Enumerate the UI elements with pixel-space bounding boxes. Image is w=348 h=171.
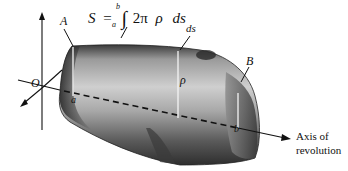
differential: ds [172,10,185,26]
coordinate-axes [18,12,64,130]
surface-of-revolution-figure: S = ∫ b a 2π ρ ds O A B a b ρ ds Axis of… [0,0,348,171]
label-point-b: B [246,55,253,67]
formula-equals: = [103,10,111,26]
integrand-coeff: 2π [133,10,148,26]
label-point-a: A [60,15,67,27]
label-axis-line2: revolution [296,145,341,156]
label-axis-line1: Axis of [296,131,329,142]
label-limit-a: a [71,95,76,105]
integral-sign: ∫ [121,7,126,29]
depth-axis-back [42,70,62,88]
integrand-var: ρ [156,10,163,26]
vertical-axis-arrowhead [39,12,45,20]
leader-A [64,29,73,46]
upper-limit: b [116,2,120,11]
solid-of-revolution [59,45,259,165]
axis-of-revolution-arrowhead [281,134,291,141]
label-radius-rho: ρ [180,74,186,86]
depth-axis [24,88,42,103]
label-origin: O [31,77,40,89]
surface-area-formula: S = ∫ b a 2π ρ ds [88,5,186,28]
dark-spot [196,50,216,60]
lower-limit: a [112,20,116,29]
label-arc-element-ds: ds [186,23,196,34]
label-limit-b: b [234,124,239,134]
formula-lhs: S [88,10,96,26]
